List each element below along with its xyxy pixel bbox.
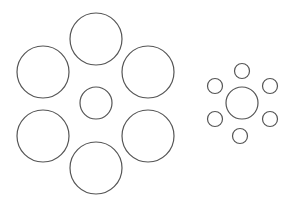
left-center-circle <box>80 87 112 119</box>
right-center-circle <box>226 87 258 119</box>
right-surround-circle <box>235 64 250 79</box>
right-surround-circle <box>208 79 223 94</box>
right-surround-circle <box>233 129 248 144</box>
right-circle-group <box>208 64 278 144</box>
left-surround-circle <box>17 46 69 98</box>
right-surround-circle <box>263 79 278 94</box>
ebbinghaus-diagram <box>0 0 294 214</box>
left-surround-circle <box>17 110 69 162</box>
left-surround-circle <box>122 46 174 98</box>
right-surround-circle <box>208 112 223 127</box>
left-surround-circle <box>70 142 122 194</box>
left-surround-circle <box>70 13 122 65</box>
right-surround-circle <box>263 112 278 127</box>
left-circle-group <box>17 13 174 194</box>
left-surround-circle <box>122 110 174 162</box>
